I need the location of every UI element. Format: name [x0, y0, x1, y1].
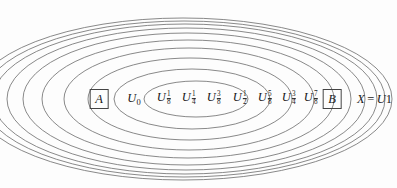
set-label-u12: U12: [233, 91, 247, 107]
equation-lhs: X: [357, 92, 365, 106]
set-label-u34-base: U: [282, 90, 291, 104]
set-label-u0-base: U: [127, 91, 136, 105]
set-label-u18-base: U: [157, 90, 166, 104]
set-label-u38-fraction: 38: [216, 91, 221, 107]
set-label-a: A: [90, 89, 109, 109]
fraction-numerator: 1: [166, 91, 171, 98]
equation-rhs-base: U: [377, 92, 386, 106]
fraction-denominator: 8: [267, 99, 272, 107]
set-label-b: B: [323, 89, 342, 109]
set-label-u58-fraction: 58: [267, 91, 272, 107]
fraction-denominator: 8: [216, 99, 221, 107]
fraction-numerator: 7: [313, 91, 318, 98]
set-label-u18-fraction: 18: [166, 91, 171, 107]
set-label-u0: U0: [127, 92, 141, 106]
set-label-u78-fraction: 78: [313, 91, 318, 107]
equation-rhs-subscript: 1: [386, 92, 392, 106]
fraction-denominator: 8: [313, 99, 318, 107]
equation-x-equals-u1: X=U1: [357, 93, 392, 106]
set-label-u12-base: U: [233, 90, 242, 104]
set-label-u34-fraction: 34: [291, 91, 296, 107]
set-label-u38-base: U: [207, 90, 216, 104]
equation-operator: =: [367, 92, 374, 106]
set-label-u14-base: U: [182, 90, 191, 104]
set-label-u38: U38: [207, 91, 221, 107]
set-label-u58: U58: [258, 91, 272, 107]
set-label-u18: U18: [157, 91, 171, 107]
fraction-numerator: 3: [291, 91, 296, 98]
labels-layer: A B U0 U18 U14 U38 U12 U58 U34 U78 X=U1: [0, 0, 397, 188]
nested-sets-diagram: A B U0 U18 U14 U38 U12 U58 U34 U78 X=U1: [0, 0, 397, 188]
fraction-numerator: 5: [267, 91, 272, 98]
fraction-denominator: 8: [166, 99, 171, 107]
set-label-u0-subscript: 0: [137, 97, 141, 107]
set-label-u12-fraction: 12: [242, 91, 247, 107]
fraction-numerator: 1: [242, 91, 247, 98]
fraction-denominator: 4: [191, 99, 196, 107]
set-label-u58-base: U: [258, 90, 267, 104]
set-label-u78-base: U: [304, 90, 313, 104]
set-label-u14-fraction: 14: [191, 91, 196, 107]
fraction-numerator: 3: [216, 91, 221, 98]
set-label-u14: U14: [182, 91, 196, 107]
set-label-u78: U78: [304, 91, 318, 107]
set-label-u34: U34: [282, 91, 296, 107]
fraction-denominator: 2: [242, 99, 247, 107]
fraction-denominator: 4: [291, 99, 296, 107]
fraction-numerator: 1: [191, 91, 196, 98]
